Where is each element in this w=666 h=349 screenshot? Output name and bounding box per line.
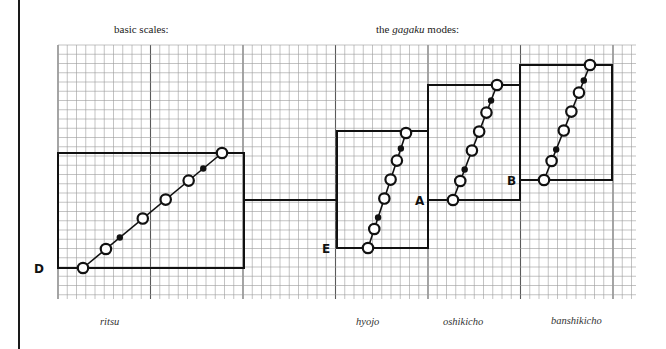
filled-note-dot <box>117 234 123 240</box>
start-note-letter-a: A <box>415 194 425 208</box>
open-note-circle <box>474 126 484 136</box>
filled-note-dot <box>581 77 587 83</box>
filled-note-dot <box>553 146 559 152</box>
mode-label-banshikicho: banshikicho <box>551 315 602 326</box>
open-note-circle <box>574 87 584 97</box>
open-note-circle <box>369 224 379 234</box>
mode-banshikicho: B <box>507 60 612 188</box>
open-note-circle <box>481 107 491 117</box>
start-note-letter-d: D <box>34 262 44 276</box>
mode-box <box>337 131 428 248</box>
open-note-circle <box>566 106 576 116</box>
open-note-circle <box>539 175 549 185</box>
mode-figures: DEAB <box>34 60 612 276</box>
start-note-letter-e: E <box>322 242 330 256</box>
open-note-circle <box>217 148 227 158</box>
open-note-circle <box>183 175 193 185</box>
mode-ritsu: D <box>34 148 244 276</box>
mode-label-oshikicho: oshikicho <box>443 316 483 327</box>
filled-note-dot <box>461 166 467 172</box>
filled-note-dot <box>375 214 381 220</box>
filled-note-dot <box>488 97 494 103</box>
mode-label-ritsu: ritsu <box>100 316 119 327</box>
open-note-circle <box>585 60 595 70</box>
open-note-circle <box>78 263 88 273</box>
open-note-circle <box>448 195 458 205</box>
scale-diagram: DEAB <box>0 0 666 349</box>
open-note-circle <box>138 213 148 223</box>
open-note-circle <box>161 194 171 204</box>
open-note-circle <box>455 176 465 186</box>
mode-oshikicho: A <box>415 80 520 208</box>
open-note-circle <box>379 193 389 203</box>
graph-paper-grid <box>58 45 636 299</box>
open-note-circle <box>546 156 556 166</box>
open-note-circle <box>101 244 111 254</box>
open-note-circle <box>385 174 395 184</box>
filled-note-dot <box>200 165 206 171</box>
start-note-letter-b: B <box>507 174 516 188</box>
open-note-circle <box>492 80 502 90</box>
open-note-circle <box>467 145 477 155</box>
mode-label-hyojo: hyojo <box>356 316 379 327</box>
open-note-circle <box>559 125 569 135</box>
open-note-circle <box>401 128 411 138</box>
filled-note-dot <box>398 145 404 151</box>
open-note-circle <box>392 155 402 165</box>
open-note-circle <box>363 243 373 253</box>
